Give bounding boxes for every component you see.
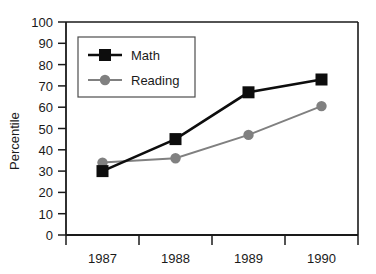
- math-point-1988: [170, 133, 182, 145]
- reading-point-1988: [170, 153, 180, 163]
- legend-reading-marker-icon: [100, 75, 110, 85]
- x-tick-label-1989: 1989: [234, 251, 263, 266]
- legend-math-marker-icon: [99, 49, 111, 61]
- math-point-1989: [243, 86, 255, 98]
- x-tick-label-1988: 1988: [161, 251, 190, 266]
- y-tick-label-40: 40: [39, 143, 53, 158]
- x-tick-label-1987: 1987: [88, 251, 117, 266]
- y-tick-label-100: 100: [31, 15, 53, 30]
- legend: Math Reading: [78, 37, 195, 97]
- legend-reading-label: Reading: [131, 73, 179, 88]
- y-tick-label-0: 0: [46, 228, 53, 243]
- math-point-1987: [97, 165, 109, 177]
- chart-container: 100 90 80 70 60 50 40 30 20 10 0 Percent…: [0, 0, 376, 274]
- y-tick-label-20: 20: [39, 185, 53, 200]
- y-axis-title: Percentile: [7, 112, 22, 170]
- x-tick-label-1990: 1990: [307, 251, 336, 266]
- y-tick-label-60: 60: [39, 100, 53, 115]
- line-chart: 100 90 80 70 60 50 40 30 20 10 0 Percent…: [0, 0, 376, 274]
- reading-point-1989: [243, 130, 253, 140]
- y-tick-label-70: 70: [39, 79, 53, 94]
- y-tick-label-90: 90: [39, 36, 53, 51]
- legend-math-label: Math: [131, 48, 160, 63]
- y-tick-label-10: 10: [39, 207, 53, 222]
- y-tick-label-80: 80: [39, 58, 53, 73]
- reading-point-1990: [316, 101, 326, 111]
- y-tick-label-50: 50: [39, 122, 53, 137]
- legend-box: [78, 37, 195, 97]
- y-tick-label-30: 30: [39, 164, 53, 179]
- math-point-1990: [316, 74, 328, 86]
